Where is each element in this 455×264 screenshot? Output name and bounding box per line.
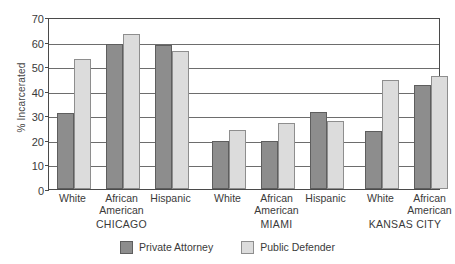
x-axis-group-label: CHICAGO bbox=[62, 218, 182, 230]
legend-item-public-defender: Public Defender bbox=[241, 241, 335, 254]
legend-item-private-attorney: Private Attorney bbox=[120, 241, 213, 254]
bar-series-container bbox=[49, 19, 439, 189]
x-axis-category-label-line: American bbox=[390, 204, 455, 216]
y-axis-tick-label: 70 bbox=[32, 13, 44, 25]
y-axis-tick-label: 30 bbox=[32, 111, 44, 123]
bar-private-attorney bbox=[106, 44, 123, 189]
y-axis-tick-label: 40 bbox=[32, 87, 44, 99]
y-axis-tick-mark bbox=[45, 190, 49, 191]
bar-private-attorney bbox=[212, 141, 229, 189]
chart-legend: Private Attorney Public Defender bbox=[0, 236, 455, 258]
bar-private-attorney bbox=[365, 131, 382, 189]
x-axis-group-label: MIAMI bbox=[217, 218, 337, 230]
x-axis-category-label: AfricanAmerican bbox=[390, 192, 455, 216]
legend-label-public-defender: Public Defender bbox=[260, 241, 335, 253]
x-axis-category-label-line: American bbox=[82, 204, 162, 216]
x-axis-group-labels: CHICAGOMIAMIKANSAS CITY bbox=[48, 218, 440, 234]
legend-label-private-attorney: Private Attorney bbox=[139, 241, 213, 253]
bar-public-defender bbox=[172, 51, 189, 189]
bar-public-defender bbox=[229, 130, 246, 189]
bar-chart-figure: % Incarcerated 010203040506070 WhiteAfri… bbox=[0, 0, 455, 264]
bar-public-defender bbox=[382, 80, 399, 189]
x-axis-category-label-line: African bbox=[390, 192, 455, 204]
bar-private-attorney bbox=[261, 141, 278, 189]
y-axis-tick-label: 20 bbox=[32, 136, 44, 148]
bar-public-defender bbox=[74, 59, 91, 189]
bar-public-defender bbox=[278, 123, 295, 189]
legend-swatch-public-defender bbox=[241, 241, 254, 254]
x-axis-group-label: KANSAS CITY bbox=[345, 218, 455, 230]
y-axis-tick-label: 60 bbox=[32, 38, 44, 50]
y-axis-tick-label: 50 bbox=[32, 62, 44, 74]
bar-public-defender bbox=[431, 76, 448, 189]
x-axis-category-label-line: American bbox=[237, 204, 317, 216]
legend-swatch-private-attorney bbox=[120, 241, 133, 254]
plot-area: 010203040506070 bbox=[48, 18, 440, 190]
bar-private-attorney bbox=[414, 85, 431, 189]
bar-private-attorney bbox=[155, 45, 172, 189]
bar-public-defender bbox=[123, 34, 140, 189]
bar-private-attorney bbox=[57, 113, 74, 189]
y-axis-tick-label: 10 bbox=[32, 160, 44, 172]
y-axis-title: % Incarcerated bbox=[16, 28, 27, 168]
bar-private-attorney bbox=[310, 112, 327, 189]
bar-public-defender bbox=[327, 121, 344, 189]
